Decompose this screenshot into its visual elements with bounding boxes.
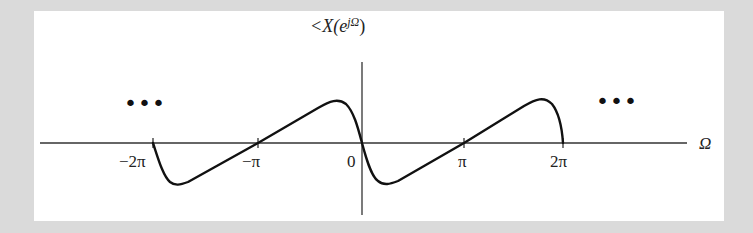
- title-prefix: <X(e: [310, 16, 347, 36]
- title-suffix: ): [359, 16, 365, 36]
- continuation-dots-right: •••: [596, 91, 638, 113]
- chart-title: <X(ejΩ): [310, 16, 365, 35]
- phase-curve: [153, 99, 563, 184]
- phase-plot: [0, 0, 753, 233]
- tick-label-pi: π: [458, 153, 467, 170]
- tick-label-2pi: 2π: [550, 153, 567, 170]
- x-axis-label: Ω: [699, 135, 711, 152]
- tick-label-minus-pi: −π: [242, 153, 260, 170]
- tick-label-zero: 0: [347, 153, 356, 170]
- title-superscript: jΩ: [347, 15, 359, 29]
- continuation-dots-left: •••: [124, 93, 166, 115]
- tick-label-minus-2pi: −2π: [119, 153, 146, 170]
